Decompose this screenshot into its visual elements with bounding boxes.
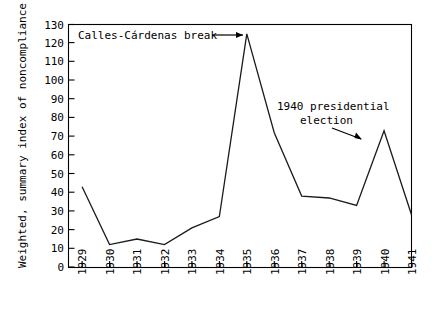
annotation-label: Calles-Cárdenas break	[78, 29, 217, 42]
x-tick-label: 1939	[351, 249, 364, 276]
x-tick-label: 1933	[186, 249, 199, 276]
annotation-label-line2: election	[300, 114, 353, 127]
x-tick-label: 1937	[296, 249, 309, 276]
y-tick-label: 110	[44, 55, 64, 68]
x-axis-tick-labels: 1929 1930 1931 1932 1933 1934 1935 1936 …	[76, 248, 419, 275]
x-tick-label: 1935	[241, 249, 254, 276]
y-axis-ticks	[69, 25, 75, 268]
y-tick-label: 130	[44, 19, 64, 32]
x-tick-label: 1934	[214, 248, 227, 275]
chart-figure: 0 10 20 30 40 50 60 70 80 90 100 110 120…	[0, 0, 432, 319]
data-series-line	[82, 34, 411, 245]
arrowhead-icon	[355, 133, 363, 140]
plot-area-frame	[69, 25, 412, 268]
y-tick-label: 90	[51, 93, 64, 106]
x-tick-label: 1940	[379, 249, 392, 276]
y-tick-label: 80	[51, 111, 64, 124]
y-tick-label: 0	[57, 261, 64, 274]
x-tick-label: 1929	[76, 249, 89, 276]
y-tick-label: 120	[44, 37, 64, 50]
line-chart: 0 10 20 30 40 50 60 70 80 90 100 110 120…	[0, 0, 432, 319]
x-tick-label: 1936	[269, 249, 282, 276]
y-tick-label: 70	[51, 130, 64, 143]
arrowhead-icon	[236, 32, 243, 38]
annotation-label-line1: 1940 presidential	[277, 100, 390, 113]
x-tick-label: 1932	[159, 249, 172, 276]
y-tick-label: 30	[51, 205, 64, 218]
x-tick-label: 1931	[131, 249, 144, 276]
y-axis-tick-labels: 0 10 20 30 40 50 60 70 80 90 100 110 120…	[44, 19, 64, 275]
y-axis-title: Weighted, summary index of noncompliance	[16, 3, 29, 268]
annotation-presidential-election: 1940 presidential election	[277, 100, 390, 140]
y-tick-label: 100	[44, 74, 64, 87]
annotation-calles-cardenas-break: Calles-Cárdenas break	[78, 29, 243, 42]
y-tick-label: 50	[51, 168, 64, 181]
x-tick-label: 1930	[104, 249, 117, 276]
x-tick-label: 1938	[324, 249, 337, 276]
x-tick-label: 1941	[406, 249, 419, 276]
y-tick-label: 20	[51, 224, 64, 237]
y-tick-label: 40	[51, 186, 64, 199]
y-tick-label: 10	[51, 242, 64, 255]
y-tick-label: 60	[51, 149, 64, 162]
